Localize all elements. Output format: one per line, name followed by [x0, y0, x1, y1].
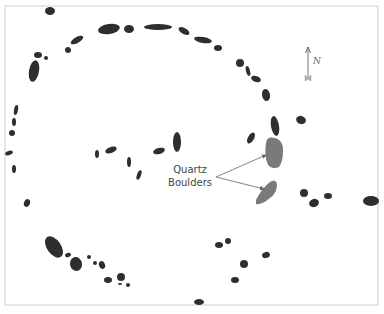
- stone: [9, 130, 15, 136]
- stone: [64, 46, 72, 54]
- stone: [104, 145, 117, 155]
- stone: [104, 277, 112, 283]
- north-label: N: [313, 56, 321, 66]
- map-frame: [5, 6, 378, 305]
- stone: [117, 273, 125, 281]
- stone: [135, 170, 142, 181]
- callout-arrow: [216, 155, 266, 177]
- quartz-boulder-group: [256, 138, 283, 205]
- stone: [93, 261, 97, 265]
- stone: [215, 242, 223, 248]
- callout-arrows: [216, 155, 266, 189]
- stone: [34, 52, 42, 58]
- stone: [45, 7, 55, 15]
- stone: [261, 88, 271, 101]
- quartz-boulder: [265, 138, 283, 169]
- stone: [324, 193, 332, 199]
- stone: [27, 59, 41, 82]
- stone: [98, 260, 106, 270]
- stone: [245, 66, 251, 77]
- stone: [144, 24, 172, 30]
- stone: [300, 189, 308, 197]
- quartz-label-line2: Boulders: [164, 177, 216, 189]
- stone: [118, 283, 122, 285]
- stone: [124, 25, 134, 33]
- stone: [64, 252, 71, 258]
- stone: [41, 233, 66, 261]
- callout-arrow: [216, 177, 264, 189]
- stone: [69, 256, 83, 272]
- stone: [12, 165, 16, 173]
- stone: [87, 255, 91, 259]
- stone: [13, 105, 19, 116]
- stone: [261, 251, 271, 259]
- stone: [69, 34, 84, 46]
- stone: [12, 118, 16, 126]
- stone: [23, 198, 31, 208]
- stone: [295, 115, 307, 126]
- stone: [236, 59, 244, 67]
- stone: [194, 299, 204, 305]
- quartz-label-line1: Quartz: [168, 164, 212, 176]
- site-plan-diagram: [0, 0, 384, 314]
- stone-group: [5, 7, 379, 305]
- stone: [127, 157, 131, 167]
- stone: [97, 22, 120, 36]
- stone: [231, 277, 239, 283]
- stone: [152, 147, 165, 156]
- quartz-boulder: [256, 181, 277, 204]
- stone: [95, 150, 99, 158]
- stone: [245, 131, 256, 144]
- stone: [308, 198, 320, 209]
- stone: [177, 25, 190, 36]
- stone: [363, 196, 379, 206]
- stone: [240, 260, 248, 268]
- stone: [225, 238, 231, 244]
- stone: [126, 283, 130, 287]
- stone: [5, 150, 14, 156]
- north-arrow-icon: [305, 47, 311, 81]
- stone: [173, 132, 181, 152]
- stone: [214, 45, 222, 51]
- stone: [269, 115, 280, 136]
- stone: [194, 35, 213, 44]
- stone: [44, 56, 48, 60]
- stone: [250, 74, 261, 83]
